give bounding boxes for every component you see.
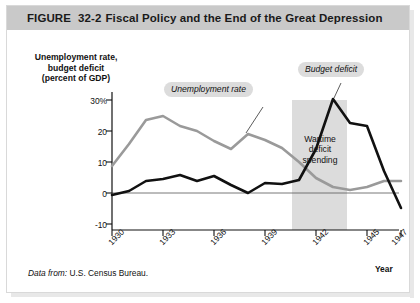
figure-container: FIGURE32-2Fiscal Policy and the End of t… [0,0,420,303]
source-note-text: U.S. Census Bureau. [69,268,148,278]
figure-label: FIGURE [27,12,71,24]
figure-title: FIGURE32-2Fiscal Policy and the End of t… [7,12,383,24]
source-note: Data from: U.S. Census Bureau. [28,268,148,278]
figure-title-band: FIGURE32-2Fiscal Policy and the End of t… [7,6,409,30]
annotation-budget-deficit: Budget deficit [298,62,364,77]
x-axis-title: Year [375,264,393,274]
wartime-label-line1: Wartime [295,134,345,144]
drop-shadow-right [410,10,414,298]
figure-title-text: Fiscal Policy and the End of the Great D… [105,12,382,24]
wartime-label-line2: deficit [295,144,345,154]
figure-number: 32-2 [78,12,101,24]
wartime-label-line3: spending [295,155,345,165]
plot-area: Unemployment rate, budget deficit (perce… [7,30,409,293]
annotation-wartime-deficit-spending: Wartime deficit spending [295,134,345,165]
annotation-unemployment-rate: Unemployment rate [164,82,253,97]
series-budget-deficit [112,99,401,208]
leader-line-unemployment [246,107,263,133]
source-note-prefix: Data from: [28,268,67,278]
leader-line-deficit [334,83,341,98]
drop-shadow-bottom [11,293,414,297]
